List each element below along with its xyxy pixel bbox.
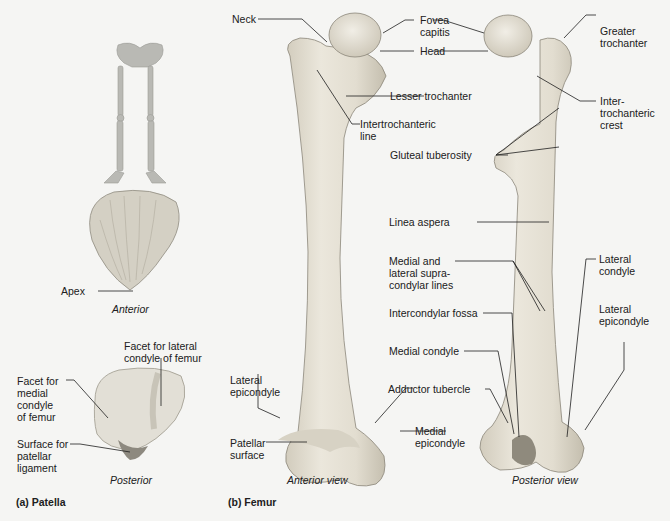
label-facet-medial-condyle: Facet for medial condyle of femur [17,375,58,423]
panel-title-femur: (b) Femur [228,496,276,508]
label-gluteal-tuberosity: Gluteal tuberosity [390,149,472,161]
label-supracondylar-lines: Medial and lateral supra- condylar lines [389,255,453,291]
femur-anterior [278,13,386,486]
view-caption-patella-posterior: Posterior [110,474,152,486]
label-head: Head [420,45,445,57]
label-adductor-tubercle: Adductor tubercle [388,383,470,395]
label-neck: Neck [232,13,256,25]
illustration [0,0,670,521]
label-fovea-capitis: Fovea capitis [420,14,450,38]
label-lateral-epicondyle-anterior: Lateral epicondyle [230,374,280,398]
label-patellar-surface: Patellar surface [230,437,266,461]
label-lateral-condyle: Lateral condyle [599,253,635,277]
view-caption-femur-posterior: Posterior view [512,474,578,486]
label-intercondylar-fossa: Intercondylar fossa [389,307,478,319]
label-medial-epicondyle: Medial epicondyle [415,425,465,449]
label-intertrochanteric-crest: Inter- trochanteric crest [600,95,655,131]
label-lesser-trochanter: Lesser trochanter [390,90,472,102]
label-medial-condyle: Medial condyle [389,345,459,357]
view-caption-femur-anterior: Anterior view [287,474,348,486]
label-facet-lateral-condyle: Facet for lateral condyle of femur [124,340,202,364]
patella-anterior [90,190,180,290]
view-caption-patella-anterior: Anterior [112,303,149,315]
patella-posterior [94,368,185,460]
label-lateral-epicondyle-posterior: Lateral epicondyle [599,303,649,327]
panel-title-patella: (a) Patella [16,496,66,508]
label-linea-aspera: Linea aspera [389,216,450,228]
skeleton-thumbnail [104,43,166,183]
label-intertrochanteric-line: Intertrochanteric line [360,118,436,142]
femur-posterior [480,15,584,472]
label-greater-trochanter: Greater trochanter [600,25,647,49]
label-surface-patellar-ligament: Surface for patellar ligament [17,438,68,474]
label-apex: Apex [61,285,85,297]
